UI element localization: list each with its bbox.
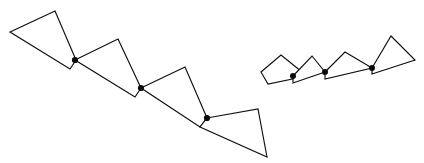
large-joint-1 xyxy=(72,57,78,63)
figure-background xyxy=(0,0,424,163)
small-joint-1 xyxy=(290,73,296,79)
polygon-chain-figure xyxy=(0,0,424,163)
large-joint-3 xyxy=(204,115,210,121)
large-joint-2 xyxy=(138,85,144,91)
small-joint-3 xyxy=(369,65,375,71)
small-joint-2 xyxy=(322,69,328,75)
